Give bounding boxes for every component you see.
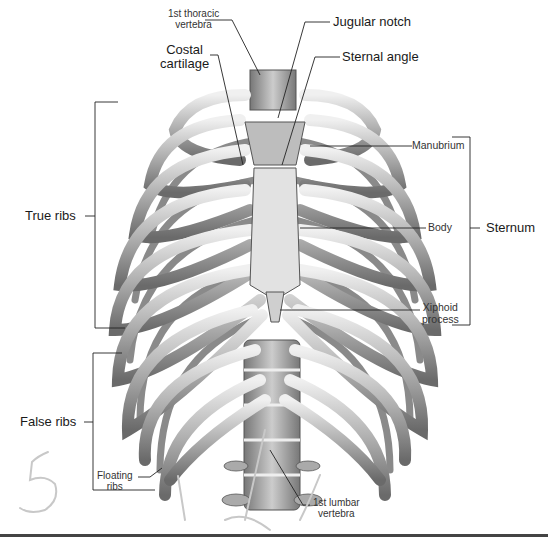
label-costal-cartilage: Costal cartilage (160, 43, 209, 72)
label-line: cartilage (160, 57, 209, 71)
label-line: vertebra (313, 508, 360, 519)
label-line: ribs (97, 481, 133, 492)
label-1st-lumbar-vertebra: 1st lumbar vertebra (313, 497, 360, 519)
label-floating-ribs: Floating ribs (97, 470, 133, 492)
label-false-ribs: False ribs (20, 415, 76, 429)
label-body: Body (428, 222, 452, 234)
label-xiphoid-process: Xiphoid process (422, 302, 459, 325)
label-line: 1st lumbar (313, 497, 360, 508)
label-line: process (422, 314, 459, 326)
label-manubrium: Manubrium (412, 140, 465, 152)
rib-cage-diagram: 1st thoracic vertebra Jugular notch Cost… (0, 0, 548, 537)
label-line: vertebra (168, 19, 219, 30)
rib-cage-illustration (0, 0, 548, 537)
label-1st-thoracic-vertebra: 1st thoracic vertebra (168, 8, 219, 30)
label-line: Xiphoid (422, 302, 459, 314)
label-true-ribs: True ribs (25, 209, 76, 223)
sternum-shape (245, 122, 305, 322)
label-sternal-angle: Sternal angle (342, 50, 419, 64)
label-line: Floating (97, 470, 133, 481)
label-line: 1st thoracic (168, 8, 219, 19)
label-line: Costal (160, 43, 209, 57)
label-sternum: Sternum (486, 221, 535, 235)
label-jugular-notch: Jugular notch (333, 15, 411, 29)
